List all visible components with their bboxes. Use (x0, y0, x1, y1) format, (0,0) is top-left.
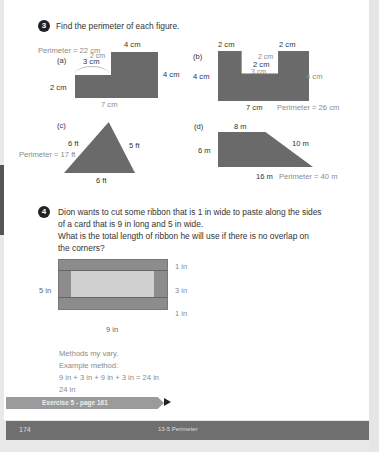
figure-a-notch-width: 3 cm (83, 57, 99, 66)
left-edge-tab (0, 165, 4, 235)
figure-c-right-dim: 5 ft (129, 141, 140, 150)
figure-d-label: (d) (194, 122, 203, 131)
figure-b-right-dim: 4 cm (306, 72, 322, 81)
figure-b-top-right-dim: 2 cm (279, 40, 295, 49)
figure-c-answer: Perimeter = 17 ft (19, 150, 75, 159)
figure-a-left-dim: 2 cm (50, 83, 66, 92)
card-bottom-band-line (58, 297, 167, 298)
question-4-line-3: What is the total length of ribbon he wi… (58, 231, 309, 241)
figure-c-bottom-dim: 6 ft (96, 176, 107, 185)
figure-b-top-left-dim: 2 cm (218, 40, 234, 49)
figure-b-label: (b) (193, 52, 202, 61)
figure-a-brace (75, 66, 109, 81)
figure-d-bottom-dim: 16 m (256, 172, 273, 181)
question-3-badge: 3 (38, 20, 50, 32)
card-top-band-line (58, 270, 167, 271)
page-footer: 174 13-5 Perimeter (6, 421, 369, 440)
figure-d-top-dim: 8 m (234, 122, 247, 131)
question-4-badge: 4 (38, 206, 50, 218)
card-middle-dim: 3 in (175, 286, 187, 295)
arrow-right-icon (164, 398, 171, 406)
figure-c-label: (c) (57, 121, 66, 130)
figure-b-notch-depth-answer: 2 cm (258, 53, 273, 60)
card-bottom-band-dim: 1 in (175, 309, 187, 318)
answer-line-2: Example method: (59, 361, 118, 370)
figure-a-top-dim: 4 cm (124, 40, 140, 49)
right-margin (369, 0, 379, 452)
figure-b-bottom-dim: 7 cm (246, 103, 262, 112)
answer-line-3: 9 in + 3 in + 9 in + 3 in = 24 in (59, 373, 159, 382)
figure-d-slant-dim: 10 m (292, 139, 309, 148)
question-4-line-1: Dion wants to cut some ribbon that is 1 … (58, 207, 322, 217)
card-inner (71, 271, 154, 297)
figure-d-left-dim: 6 m (198, 146, 211, 155)
figure-a-right-dim: 4 cm (163, 70, 179, 79)
exercise-link-label: Exercise 5 - page 161 (42, 399, 108, 406)
answer-line-1: Methods my vary. (59, 349, 118, 358)
card-height-dim: 5 in (39, 286, 51, 295)
figure-d-answer: Perimeter = 40 m (279, 172, 337, 181)
figure-a-label: (a) (57, 56, 66, 65)
card-width-dim: 9 in (106, 325, 118, 334)
exercise-link[interactable]: Exercise 5 - page 161 (6, 397, 164, 409)
page-number: 174 (19, 426, 31, 433)
question-3-prompt: Find the perimeter of each figure. (56, 21, 179, 31)
card-top-band-dim: 1 in (175, 262, 187, 271)
figure-c-left-dim: 6 ft (68, 139, 79, 148)
figure-b-notch-width: 3 cm (251, 68, 266, 75)
chapter-title: 13-5 Perimeter (158, 426, 198, 432)
figure-a-bottom-dim: 7 cm (101, 100, 117, 109)
answer-line-4: 24 in (59, 385, 75, 394)
question-4-line-4: the corners? (58, 243, 105, 253)
figure-b-left-dim: 4 cm (193, 72, 209, 81)
question-4-line-2: of a card that is 9 in long and 5 in wid… (58, 219, 203, 229)
figure-b-answer: Perimeter = 26 cm (277, 103, 339, 112)
